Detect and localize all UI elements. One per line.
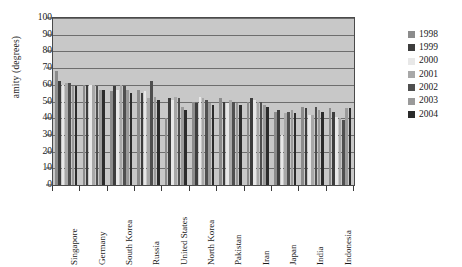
bar [102,90,105,185]
bar [178,98,181,185]
bar [62,85,65,185]
bar [174,97,177,186]
bar [126,90,129,185]
bar [58,81,61,185]
bar-group [245,18,272,185]
x-tick-label: India [315,247,325,266]
x-tick-label: Indonesia [343,230,353,265]
x-tick-label: Russia [151,241,161,265]
bar-group [299,18,326,185]
bar [301,107,304,185]
bar-group [217,18,244,185]
bar [229,100,232,185]
legend-item: 2004 [408,108,462,121]
bar [335,117,338,185]
x-tick-mark [134,186,135,191]
bar [232,102,235,186]
legend-label: 2001 [419,70,438,80]
bar [99,90,102,185]
bar [294,113,297,185]
bar [150,81,153,185]
bar [168,98,171,185]
bar [236,103,239,185]
legend-label: 2004 [419,110,438,120]
bar [315,107,318,185]
x-tick-mark [52,186,53,191]
bar [342,120,345,185]
bar [311,115,314,185]
bar [247,102,250,186]
legend-item: 1999 [408,41,462,54]
x-tick-mark [161,186,162,191]
legend-label: 1998 [419,30,438,40]
legend-item: 2001 [408,68,462,81]
bar-group [162,18,189,185]
x-tick-label: Iran [261,251,271,266]
bar [277,110,280,185]
bar-group [53,18,80,185]
bar [202,98,205,185]
x-tick-label: United States [179,217,189,265]
bar [263,105,266,185]
legend-item: 1998 [408,28,462,41]
bar [92,85,95,185]
x-tick-mark [189,186,190,191]
bar [318,110,321,185]
bars-layer [53,18,354,185]
bar [83,85,86,185]
bar [239,105,242,185]
bar [165,118,168,185]
x-tick-label: Germany [97,232,107,266]
bar [154,97,157,186]
legend-swatch-icon [408,31,415,38]
x-tick-label: Pakistan [233,235,243,266]
x-tick-mark [244,186,245,191]
bar-group [190,18,217,185]
bar [305,108,308,185]
bar [208,103,211,185]
bar [284,113,287,185]
bar [157,100,160,185]
legend-swatch-icon [408,111,415,118]
x-tick-mark [216,186,217,191]
x-axis-ticks [52,186,355,192]
bar-group [108,18,135,185]
legend-swatch-icon [408,71,415,78]
bar [75,86,78,185]
x-tick-mark [326,186,327,191]
legend-label: 2003 [419,96,438,106]
bar [349,108,352,185]
bar [96,86,99,185]
bar [345,108,348,185]
bar [181,107,184,185]
bar-group [135,18,162,185]
bar [257,102,260,186]
legend: 1998199920002001200220032004 [408,28,462,121]
bar-group [327,18,354,185]
legend-swatch-icon [408,98,415,105]
bar [116,90,119,185]
x-tick-mark [107,186,108,191]
legend-label: 1999 [419,43,438,53]
bar [72,86,75,185]
bar [253,100,256,185]
x-tick-mark [353,186,354,191]
bar [266,107,269,185]
bar-group [80,18,107,185]
bar [171,100,174,185]
bar [147,98,150,185]
bar [123,86,126,185]
bar [137,90,140,185]
bar [144,91,147,185]
bar [329,108,332,185]
bar [291,110,294,185]
y-axis-ticks: 1009080706050403020100 [0,0,52,187]
bar [250,98,253,185]
bar [205,100,208,185]
bar [199,97,202,186]
bar [68,83,71,185]
x-tick-mark [79,186,80,191]
legend-swatch-icon [408,44,415,51]
bar [120,85,123,185]
bar [86,85,89,185]
